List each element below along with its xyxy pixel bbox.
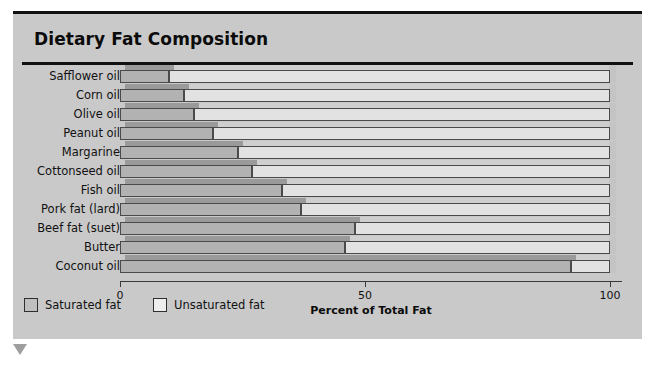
bar-row: Olive oil [22, 104, 633, 123]
bar-segment-saturated [120, 241, 345, 254]
stacked-bar [120, 222, 610, 235]
category-label-fish-oil: Fish oil [0, 183, 120, 197]
bar-segment-unsaturated [355, 222, 610, 235]
stacked-bar [120, 70, 610, 83]
legend-swatch-saturated [24, 298, 38, 312]
bar-segment-unsaturated [252, 165, 610, 178]
bar-segment-unsaturated [184, 89, 610, 102]
category-label-butter: Butter [0, 240, 120, 254]
category-label-coconut-oil: Coconut oil [0, 259, 120, 273]
bar-segment-saturated [120, 89, 184, 102]
bar-end-cap [609, 65, 616, 83]
stacked-bar [120, 127, 610, 140]
bar-end-cap [609, 141, 616, 159]
stacked-bar [120, 203, 610, 216]
bar-end-cap [609, 255, 616, 273]
stacked-bar [120, 146, 610, 159]
category-label-safflower-oil: Safflower oil [0, 69, 120, 83]
category-label-beef-fat-suet: Beef fat (suet) [0, 221, 120, 235]
x-tick-50 [365, 281, 366, 287]
bar-end-cap [609, 198, 616, 216]
bar-rows: Safflower oilCorn oilOlive oilPeanut oil… [22, 66, 633, 278]
bar-end-cap [609, 236, 616, 254]
category-label-pork-fat-lard: Pork fat (lard) [0, 202, 120, 216]
page-corner-marker [13, 344, 27, 355]
bar-row: Pork fat (lard) [22, 199, 633, 218]
stacked-bar [120, 260, 610, 273]
bar-segment-saturated [120, 127, 213, 140]
category-label-corn-oil: Corn oil [0, 88, 120, 102]
x-tick-0 [120, 281, 121, 287]
x-axis-line [120, 281, 622, 282]
bar-segment-saturated [120, 108, 194, 121]
legend-label-saturated: Saturated fat [45, 298, 121, 312]
bar-segment-unsaturated [282, 184, 610, 197]
bar-segment-unsaturated [213, 127, 610, 140]
stacked-bar [120, 165, 610, 178]
bar-segment-unsaturated [345, 241, 610, 254]
bar-segment-saturated [120, 70, 169, 83]
bar-row: Butter [22, 237, 633, 256]
legend-item-saturated: Saturated fat [24, 298, 121, 312]
stacked-bar [120, 108, 610, 121]
stacked-bar [120, 184, 610, 197]
stacked-bar [120, 89, 610, 102]
chart-page: Dietary Fat Composition Safflower oilCor… [0, 0, 655, 378]
bar-row: Beef fat (suet) [22, 218, 633, 237]
x-tick-label-50: 50 [358, 289, 372, 302]
plot-area: Safflower oilCorn oilOlive oilPeanut oil… [22, 66, 633, 291]
bar-end-cap [609, 84, 616, 102]
legend-label-unsaturated: Unsaturated fat [174, 298, 264, 312]
bar-segment-unsaturated [169, 70, 610, 83]
bar-end-cap [609, 179, 616, 197]
bar-row: Margarine [22, 142, 633, 161]
bar-end-cap [609, 160, 616, 178]
bar-row: Corn oil [22, 85, 633, 104]
chart-legend: Saturated fat Unsaturated fat [24, 298, 265, 312]
bar-end-cap [609, 217, 616, 235]
category-label-margarine: Margarine [0, 145, 120, 159]
bar-segment-saturated [120, 165, 252, 178]
category-label-olive-oil: Olive oil [0, 107, 120, 121]
x-tick-label-100: 100 [600, 289, 621, 302]
bar-segment-unsaturated [571, 260, 610, 273]
stacked-bar [120, 241, 610, 254]
bar-row: Cottonseed oil [22, 161, 633, 180]
x-tick-100 [610, 281, 611, 287]
bar-segment-unsaturated [238, 146, 610, 159]
bar-row: Safflower oil [22, 66, 633, 85]
legend-item-unsaturated: Unsaturated fat [153, 298, 264, 312]
chart-title: Dietary Fat Composition [34, 29, 268, 49]
chart-panel: Dietary Fat Composition Safflower oilCor… [13, 11, 642, 339]
bar-row: Coconut oil [22, 256, 633, 275]
bar-segment-saturated [120, 184, 282, 197]
legend-swatch-unsaturated [153, 298, 167, 312]
bar-row: Peanut oil [22, 123, 633, 142]
bar-segment-saturated [120, 222, 355, 235]
bar-segment-saturated [120, 203, 301, 216]
category-label-peanut-oil: Peanut oil [0, 126, 120, 140]
bar-row: Fish oil [22, 180, 633, 199]
bar-segment-saturated [120, 146, 238, 159]
bar-end-cap [609, 122, 616, 140]
bar-segment-saturated [120, 260, 571, 273]
bar-segment-unsaturated [301, 203, 610, 216]
bar-end-cap [609, 103, 616, 121]
bar-segment-unsaturated [194, 108, 611, 121]
category-label-cottonseed-oil: Cottonseed oil [0, 164, 120, 178]
